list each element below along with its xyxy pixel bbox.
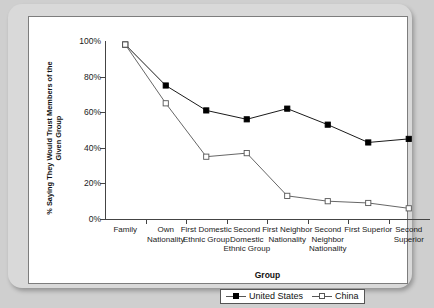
data-point-marker <box>406 206 411 211</box>
filled-square-icon <box>233 293 239 299</box>
y-axis-tick-label: 100% <box>79 36 101 46</box>
x-axis-category-label: Second Superior <box>383 225 434 244</box>
data-point-marker <box>163 101 168 106</box>
y-axis-tick-label: 80% <box>84 72 101 82</box>
legend-label-united-states: United States <box>249 291 303 301</box>
data-point-marker <box>406 136 411 141</box>
x-axis-tick-mark <box>186 219 187 224</box>
data-point-marker <box>123 42 128 47</box>
y-axis-tick-mark <box>100 219 105 220</box>
data-point-marker <box>325 122 330 127</box>
legend-entry-china[interactable]: China <box>312 291 359 301</box>
data-point-marker <box>244 117 249 122</box>
y-axis-tick-label: 60% <box>84 107 101 117</box>
open-square-icon <box>319 293 325 299</box>
legend-entry-united-states[interactable]: United States <box>226 291 303 301</box>
legend-line-china <box>312 296 332 297</box>
data-point-marker <box>366 140 371 145</box>
x-axis-tick-mark <box>267 219 268 224</box>
x-axis-tick-mark <box>348 219 349 224</box>
data-point-marker <box>204 154 209 159</box>
data-point-marker <box>366 200 371 205</box>
chart-panel: 0%20%40%60%80%100% FamilyOwn Nationality… <box>28 16 408 284</box>
y-axis-tick-label: 20% <box>84 178 101 188</box>
legend-line-united-states <box>226 296 246 297</box>
x-axis-title: Group <box>105 270 430 280</box>
data-point-marker <box>204 108 209 113</box>
chart-legend: United States China <box>220 289 365 304</box>
y-axis-tick-label: 40% <box>84 143 101 153</box>
y-axis-title: % Saying They Would Trust Members of the… <box>45 52 63 224</box>
data-point-marker <box>244 151 249 156</box>
x-axis-tick-mark <box>146 219 147 224</box>
series-line-united-states <box>125 45 409 143</box>
data-point-marker <box>285 193 290 198</box>
series-line-china <box>125 45 409 209</box>
data-point-marker <box>163 83 168 88</box>
x-axis-tick-mark <box>389 219 390 224</box>
data-point-marker <box>285 106 290 111</box>
data-point-marker <box>325 199 330 204</box>
plot-series-area <box>105 41 429 219</box>
legend-label-china: China <box>335 291 359 301</box>
chart-outer-frame: 0%20%40%60%80%100% FamilyOwn Nationality… <box>8 4 412 288</box>
x-axis-tick-mark <box>227 219 228 224</box>
x-axis-tick-mark <box>308 219 309 224</box>
y-axis-tick-labels: 0%20%40%60%80%100% <box>63 17 101 308</box>
